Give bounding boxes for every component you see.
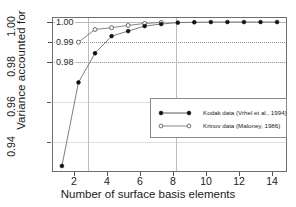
y-tick-label-2: 0.98 bbox=[5, 50, 16, 84]
legend-marker-filled-circle bbox=[157, 107, 199, 119]
legend-label-krinov: Krinov data (Maloney, 1986) bbox=[203, 120, 280, 132]
x-tick-label-14: 14 bbox=[263, 175, 281, 187]
y-tick-label-4: 0.94 bbox=[5, 130, 16, 164]
legend-marker-open-circle bbox=[157, 120, 199, 132]
x-tick-label-12: 12 bbox=[230, 175, 248, 187]
x-tick-label-4: 4 bbox=[98, 175, 116, 187]
chart-container: Variance accounted for 1.00 0.98 0.96 0.… bbox=[0, 0, 296, 207]
x-axis-label: Number of surface basis elements bbox=[0, 188, 296, 200]
x-tick-label-6: 6 bbox=[131, 175, 149, 187]
legend-entry-krinov: Krinov data (Maloney, 1986) bbox=[157, 120, 285, 132]
y-tick-mark-4 bbox=[47, 142, 51, 143]
plot-frame bbox=[52, 17, 287, 172]
x-tick-label-8: 8 bbox=[164, 175, 182, 187]
y-tick-label-1: 1.00 bbox=[5, 10, 16, 44]
y-axis-label: Variance accounted for bbox=[15, 5, 31, 135]
legend-entry-kodak: Kodak data (Vrhel et al., 1994) bbox=[157, 107, 285, 119]
legend: Kodak data (Vrhel et al., 1994) Krinov d… bbox=[150, 98, 287, 138]
x-tick-label-2: 2 bbox=[65, 175, 83, 187]
x-tick-label-10: 10 bbox=[197, 175, 215, 187]
y-tick-mark-3 bbox=[47, 102, 51, 103]
legend-label-kodak: Kodak data (Vrhel et al., 1994) bbox=[203, 107, 287, 119]
y-tick-label-3: 0.96 bbox=[5, 90, 16, 124]
